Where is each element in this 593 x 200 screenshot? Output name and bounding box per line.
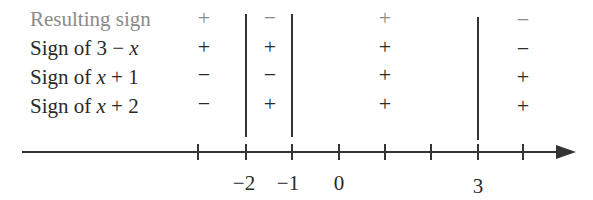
divider-x-3 [477, 17, 479, 140]
sign-x-plus-1-int4: + [513, 65, 533, 89]
tick-3 [477, 144, 479, 160]
label-text: Sign of [30, 65, 97, 89]
tick-minus-1 [291, 144, 293, 160]
variable-x: x [97, 94, 106, 118]
variable-x: x [129, 36, 138, 60]
sign-x-plus-1-int3: + [375, 63, 395, 87]
row-label-sign-x-plus-2: Sign of x + 2 [30, 94, 139, 118]
tick-label-0: 0 [319, 172, 359, 194]
divider-x-minus-2 [245, 14, 247, 137]
sign-3-minus-x-int2: + [260, 35, 280, 59]
sign-x-plus-2-int2: + [260, 92, 280, 116]
sign-x-plus-2-int3: + [375, 92, 395, 116]
variable-x: x [97, 65, 106, 89]
sign-x-plus-2-int4: + [513, 94, 533, 118]
sign-resulting-int2: − [260, 6, 280, 30]
tick-4 [522, 144, 524, 160]
tick-minus-2 [245, 144, 247, 160]
label-text: + 2 [106, 94, 139, 118]
sign-x-plus-1-int2: − [260, 63, 280, 87]
sign-3-minus-x-int3: + [375, 35, 395, 59]
row-label-sign-x-plus-1: Sign of x + 1 [30, 65, 139, 89]
tick-label-minus-1: −1 [268, 172, 308, 194]
row-label-resulting-sign: Resulting sign [30, 7, 151, 31]
tick-1 [384, 144, 386, 160]
sign-3-minus-x-int1: + [194, 35, 214, 59]
tick-label-3: 3 [458, 175, 498, 197]
tick-minus-3 [197, 144, 199, 160]
row-label-sign-3-minus-x: Sign of 3 − x [30, 36, 139, 60]
tick-2 [430, 144, 432, 160]
sign-x-plus-2-int1: − [194, 92, 214, 116]
label-text: Sign of 3 − [30, 36, 129, 60]
sign-3-minus-x-int4: − [513, 37, 533, 61]
sign-resulting-int3: + [375, 6, 395, 30]
tick-0 [338, 144, 340, 160]
sign-resulting-int1: + [194, 6, 214, 30]
sign-x-plus-1-int1: − [194, 63, 214, 87]
label-text: Sign of [30, 94, 97, 118]
sign-resulting-int4: − [513, 8, 533, 32]
tick-label-minus-2: −2 [224, 172, 264, 194]
label-text: + 1 [106, 65, 139, 89]
arrow-right-icon [556, 145, 576, 159]
divider-x-minus-1 [291, 14, 293, 137]
